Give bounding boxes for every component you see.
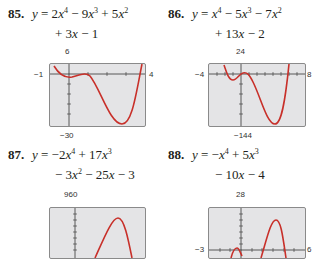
equation-line-1: y = 2x4 − 9x3 + 5x2 [32,6,128,22]
graph-88 [208,207,306,259]
equation-line-1: y = −x4 + 5x3 [192,147,259,163]
graph-86 [208,63,306,127]
window-ymin: −144 [234,131,252,140]
window-xmin: −4 [195,70,204,79]
equation-line-2: − 10x − 4 [215,167,265,183]
window-ymax: 28 [236,190,245,199]
equation-line-1: y = x4 − 5x3 − 7x2 [192,6,282,22]
graph-87 [49,207,146,259]
problem-number: 86. [168,6,184,22]
window-xmax: 6 [307,245,311,254]
window-xmax: 8 [307,70,311,79]
equation-line-1: y = −2x4 + 17x3 [32,147,112,163]
problem-number: 87. [8,147,24,163]
window-ymax: 6 [65,47,69,56]
equation-line-2: + 3x − 1 [55,26,98,42]
equation-line-2: + 13x − 2 [215,26,265,42]
window-xmin: −3 [195,245,204,254]
window-ymax: 24 [236,47,245,56]
graph-85 [49,63,146,127]
window-xmax: 4 [149,70,153,79]
window-ymax: 960 [64,190,77,199]
window-xmin: −1 [34,70,43,79]
window-ymin: −30 [60,131,74,140]
problem-number: 88. [168,147,184,163]
equation-line-2: − 3x2 − 25x − 3 [55,167,135,183]
problem-number: 85. [8,6,24,22]
